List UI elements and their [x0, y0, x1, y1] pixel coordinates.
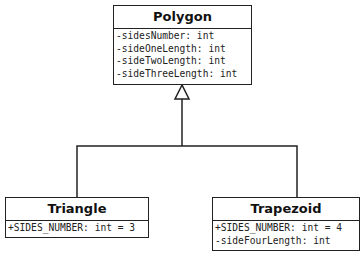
class-name: Polygon	[114, 6, 251, 29]
attribute: -sideThreeLength: int	[116, 68, 251, 81]
class-triangle[interactable]: Triangle +SIDES_NUMBER: int = 3	[5, 197, 149, 238]
inheritance-branch-line	[77, 146, 297, 197]
attribute: -sideOneLength: int	[116, 43, 251, 56]
attribute-list: +SIDES_NUMBER: int = 4 -sideFourLength: …	[213, 221, 359, 247]
attribute: +SIDES_NUMBER: int = 4	[215, 222, 359, 235]
attribute-list: -sidesNumber: int -sideOneLength: int -s…	[114, 29, 251, 80]
attribute: -sidesNumber: int	[116, 30, 251, 43]
generalization-arrowhead-icon	[175, 85, 189, 99]
attribute: -sideFourLength: int	[215, 235, 359, 248]
class-polygon[interactable]: Polygon -sidesNumber: int -sideOneLength…	[113, 5, 252, 85]
class-trapezoid[interactable]: Trapezoid +SIDES_NUMBER: int = 4 -sideFo…	[212, 197, 360, 251]
class-name: Trapezoid	[213, 198, 359, 221]
attribute: +SIDES_NUMBER: int = 3	[8, 222, 148, 235]
attribute: -sideTwoLength: int	[116, 55, 251, 68]
attribute-list: +SIDES_NUMBER: int = 3	[6, 221, 148, 235]
class-name: Triangle	[6, 198, 148, 221]
